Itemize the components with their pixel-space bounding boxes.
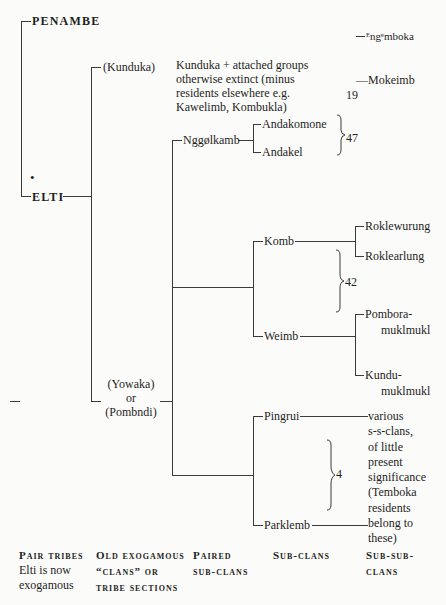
brace-47 [337,115,345,155]
andak-count: 47 [346,131,358,145]
paired-weimb: Weimb [264,329,298,343]
legend-subclans: Sub-clans [273,547,330,563]
legend-paired-subclans: Paired sub-clans [193,547,248,579]
komb-count: 42 [345,275,357,289]
subclan-pombora: Pombora- [365,307,412,321]
subclan-andakomone: Andakomone [262,117,327,131]
ping-count: 4 [336,467,342,481]
tribe-penambe: PENAMBE [32,14,100,28]
penambe-count: 19 [346,88,358,102]
legend-old-exogamous: Old exogamous “clans” or tribe sections [96,547,185,595]
brace-42 [336,250,344,312]
paired-nggolkamb: Nggølkamb [183,133,240,147]
kunduka-note: Kunduka + attached groups otherwise exti… [176,58,308,114]
subclan-andakel: Andakel [262,145,303,159]
subclan-mokeimb: —Mokeimb [356,73,415,87]
subclan-pombora-cont: muklmukl [381,323,430,337]
paired-pingrui: Pingrui [264,409,299,423]
subclan-roklearlung: Roklearlung [365,249,424,263]
paired-komb: Komb [264,234,294,248]
clan-yowaka: (Yowaka) or (Pombndi) [100,377,162,419]
legend-subsubclans: Sub-sub- clans [366,547,414,579]
brace-4 [327,440,335,510]
subsubclan-note: various s-s-clans, of little present sig… [368,409,426,547]
tribe-elti: ELTI [32,190,64,204]
clan-kunduka: (Kunduka) [103,60,155,74]
subclan-roklewurung: Roklewurung [365,219,430,233]
subclan-kundu-cont: muklmukl [381,384,430,398]
paired-parklemb: Parklemb [264,518,310,532]
subclan-engemboka: ᴱngᵉmboka [366,29,414,43]
legend-pair-tribes: Pair tribes Elti is now exogamous [19,547,84,593]
subclan-kundu: Kundu- [365,368,402,382]
elti-marker: • [30,171,35,185]
